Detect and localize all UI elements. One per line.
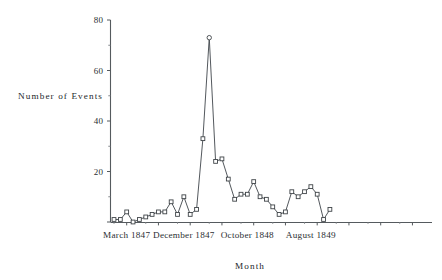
x-tick-label: August 1849	[286, 230, 336, 240]
y-tick-label: 80	[94, 15, 104, 25]
chart-figure: 20406080 March 1847December 1847October …	[0, 0, 442, 280]
data-point	[169, 200, 173, 204]
data-point	[118, 218, 122, 222]
x-tick-label: March 1847	[103, 230, 150, 240]
data-point	[176, 213, 180, 217]
data-point	[157, 210, 161, 214]
data-point	[233, 197, 237, 201]
data-point	[214, 160, 218, 164]
data-point	[271, 205, 275, 209]
data-point-peak	[207, 35, 211, 39]
data-point	[265, 197, 269, 201]
data-point	[131, 220, 135, 224]
data-point	[125, 210, 129, 214]
data-point	[252, 180, 256, 184]
line-chart: 20406080 March 1847December 1847October …	[0, 0, 442, 280]
data-point	[277, 213, 281, 217]
series-line-path	[114, 38, 330, 222]
data-point	[195, 207, 199, 211]
x-axis-tick-labels: March 1847December 1847October 1848Augus…	[103, 230, 336, 240]
data-point	[188, 213, 192, 217]
data-point	[163, 210, 167, 214]
data-point	[258, 195, 262, 199]
y-axis: 20406080	[94, 15, 111, 222]
data-point	[245, 192, 249, 196]
x-tick-label: October 1848	[221, 230, 274, 240]
data-point	[239, 192, 243, 196]
data-point	[296, 195, 300, 199]
data-point	[150, 213, 154, 217]
data-point	[303, 190, 307, 194]
data-point	[284, 210, 288, 214]
data-point	[309, 185, 313, 189]
x-axis: March 1847December 1847October 1848Augus…	[103, 222, 432, 240]
data-point	[322, 218, 326, 222]
x-axis-title: Month	[235, 261, 265, 271]
y-axis-title: Number of Events	[18, 91, 103, 101]
data-point	[226, 177, 230, 181]
data-point	[315, 192, 319, 196]
data-point	[182, 195, 186, 199]
data-point	[290, 190, 294, 194]
data-point	[144, 215, 148, 219]
y-tick-label: 40	[94, 116, 104, 126]
data-point	[220, 157, 224, 161]
series-markers	[112, 35, 332, 223]
data-series	[112, 35, 332, 223]
data-point	[328, 207, 332, 211]
data-point	[112, 218, 116, 222]
x-tick-label: December 1847	[153, 230, 215, 240]
y-tick-label: 60	[94, 66, 104, 76]
y-tick-label: 20	[94, 167, 104, 177]
data-point	[138, 218, 142, 222]
data-point	[201, 137, 205, 141]
